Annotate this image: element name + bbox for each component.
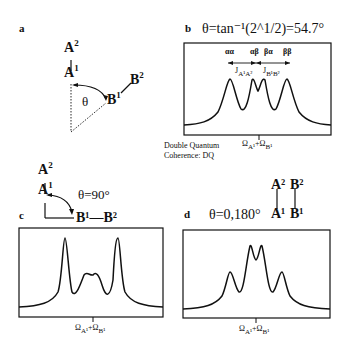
c-atom-b-bond: B¹—B² bbox=[76, 210, 117, 226]
peak-label-aa: αα bbox=[225, 47, 234, 56]
peak-label-bb: ββ bbox=[283, 47, 291, 56]
panel-d-title: θ=0,180° bbox=[209, 207, 261, 223]
panel-c-x-label: ΩA¹+ΩB¹ bbox=[75, 323, 105, 335]
angle-theta-label: θ bbox=[82, 94, 88, 110]
atom-b2: B2 bbox=[130, 70, 144, 88]
d-atom-a2: A² bbox=[271, 177, 285, 193]
c-atom-a1: A1 bbox=[38, 180, 53, 198]
panel-d-label: d bbox=[184, 208, 190, 220]
panel-b-title: θ=tan⁻¹(2^1/2)=54.7° bbox=[202, 20, 324, 37]
panel-b-label: b bbox=[185, 22, 191, 34]
d-atom-a1: A¹ bbox=[271, 206, 285, 222]
panel-c-label: c bbox=[19, 209, 24, 221]
c-atom-a2: A2 bbox=[38, 160, 53, 178]
dq-caption: Double QuantumCoherence: DQ bbox=[164, 141, 219, 161]
j-coupling-b-label: JB¹B² bbox=[263, 66, 280, 78]
d-atom-b2: B² bbox=[290, 177, 304, 193]
atom-a2: A2 bbox=[64, 38, 79, 56]
panel-c-spectrum bbox=[19, 228, 163, 322]
panel-c-title: θ=90° bbox=[78, 187, 110, 203]
panel-d-spectrum bbox=[183, 230, 330, 323]
atom-a1: A1 bbox=[64, 63, 79, 81]
atom-b1: B1 bbox=[107, 90, 121, 108]
peak-label-ab: αβ bbox=[250, 47, 259, 56]
panel-a-geometry bbox=[71, 60, 131, 132]
panel-d-x-label: ΩA¹+ΩB¹ bbox=[239, 324, 269, 336]
d-atom-b1: B¹ bbox=[290, 206, 304, 222]
panel-b-x-label: ΩA¹+ΩB¹ bbox=[242, 139, 272, 151]
panel-b-spectrum bbox=[184, 43, 331, 140]
panel-a-label: a bbox=[19, 22, 25, 34]
peak-label-ba: βα bbox=[264, 47, 273, 56]
j-coupling-a-label: JA¹A² bbox=[235, 66, 252, 78]
